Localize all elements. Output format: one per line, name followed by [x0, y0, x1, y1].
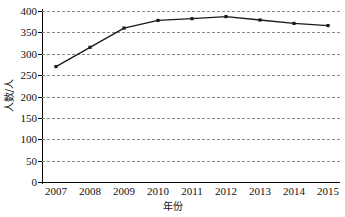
y-tick-label: 0	[32, 177, 38, 188]
x-tick-label: 2013	[249, 185, 271, 197]
plot-area: 050100150200250300350400	[42, 11, 340, 182]
data-point-marker	[258, 18, 261, 21]
y-tick-label: 350	[21, 27, 38, 38]
y-tick-label: 50	[26, 155, 37, 166]
series-line	[56, 17, 328, 67]
y-tick-label: 150	[21, 112, 38, 123]
data-series	[42, 11, 340, 182]
data-point-marker	[224, 15, 227, 18]
x-tick-label: 2009	[113, 185, 135, 197]
data-point-marker	[122, 27, 125, 30]
y-tick-label: 200	[21, 91, 38, 102]
data-point-marker	[156, 19, 159, 22]
y-tick-mark	[38, 182, 42, 183]
data-point-marker	[292, 22, 295, 25]
x-tick-label: 2011	[181, 185, 203, 197]
y-tick-label: 250	[21, 70, 38, 81]
x-tick-label: 2008	[79, 185, 101, 197]
data-point-marker	[190, 17, 193, 20]
x-axis-title: 年份	[0, 198, 345, 213]
data-point-marker	[88, 46, 91, 49]
x-tick-label: 2007	[45, 185, 67, 197]
data-point-marker	[54, 65, 57, 68]
y-tick-label: 100	[21, 134, 38, 145]
x-tick-label: 2012	[215, 185, 237, 197]
y-tick-label: 400	[21, 6, 38, 17]
x-tick-label: 2015	[317, 185, 339, 197]
y-tick-label: 300	[21, 48, 38, 59]
x-tick-label: 2014	[283, 185, 305, 197]
line-chart: 人数/人 050100150200250300350400 2007200820…	[0, 0, 345, 217]
y-axis-title: 人数/人	[1, 66, 16, 126]
x-axis-line	[41, 182, 340, 183]
data-point-marker	[326, 24, 329, 27]
x-tick-label: 2010	[147, 185, 169, 197]
